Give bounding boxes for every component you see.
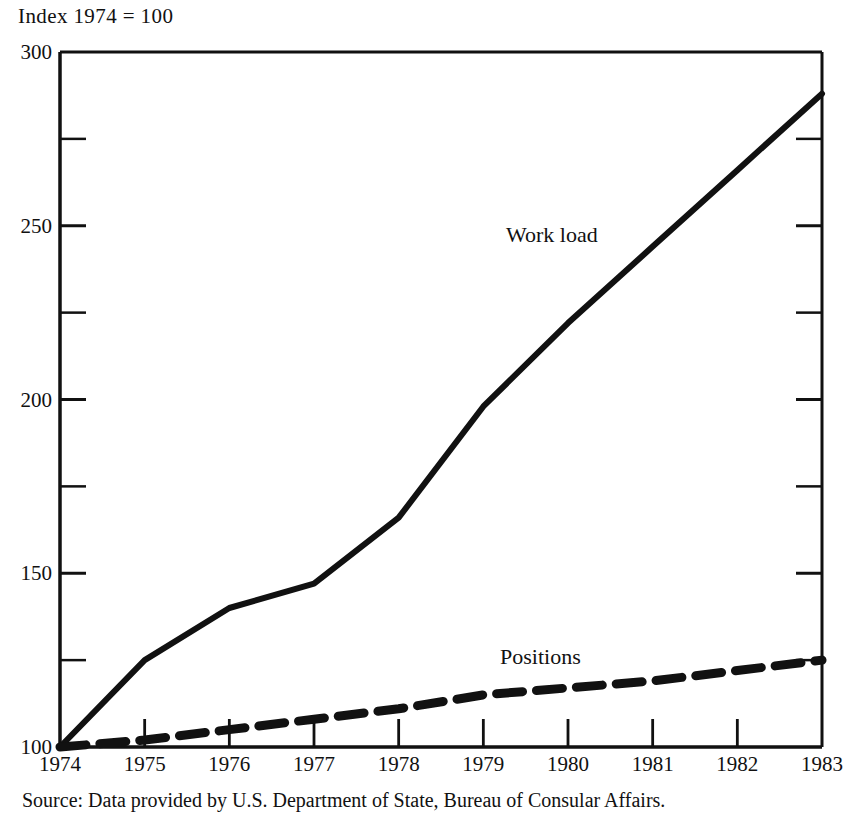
series-line-work-load bbox=[60, 94, 822, 747]
x-tick-label: 1978 bbox=[364, 752, 434, 777]
y-axis-major-ticks bbox=[60, 226, 822, 574]
x-tick-label: 1975 bbox=[110, 752, 180, 777]
x-tick-label: 1977 bbox=[279, 752, 349, 777]
chart-index-title: Index 1974 = 100 bbox=[18, 4, 173, 29]
x-tick-label: 1976 bbox=[194, 752, 264, 777]
x-tick-label: 1979 bbox=[448, 752, 518, 777]
line-chart-plot bbox=[0, 0, 847, 818]
y-axis-minor-ticks bbox=[60, 139, 822, 660]
x-tick-label: 1981 bbox=[618, 752, 688, 777]
chart-figure: Index 1974 = 100 100150200250300 1974197… bbox=[0, 0, 847, 818]
y-tick-label: 200 bbox=[0, 387, 52, 412]
series-line-positions bbox=[60, 660, 822, 747]
x-tick-label: 1982 bbox=[702, 752, 772, 777]
series-label-work-load: Work load bbox=[506, 222, 598, 248]
y-tick-label: 250 bbox=[0, 213, 52, 238]
source-note: Source: Data provided by U.S. Department… bbox=[22, 789, 665, 812]
x-tick-label: 1983 bbox=[787, 752, 847, 777]
x-tick-label: 1980 bbox=[533, 752, 603, 777]
data-series-group bbox=[60, 94, 822, 747]
series-label-positions: Positions bbox=[500, 644, 581, 670]
y-tick-label: 300 bbox=[0, 40, 52, 65]
x-tick-label: 1974 bbox=[25, 752, 95, 777]
y-tick-label: 150 bbox=[0, 561, 52, 586]
